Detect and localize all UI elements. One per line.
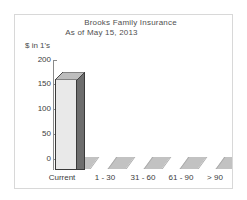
- x-axis-label-1-30: 1 - 30: [87, 173, 123, 183]
- y-axis-unit-label: $ in 1's: [25, 41, 50, 50]
- y-axis-label-50: 50: [21, 130, 51, 138]
- plot-area: 200 150 100 50 0: [15, 57, 233, 172]
- bar-top-outline-icon: [55, 72, 85, 80]
- y-axis-label-0: 0: [21, 155, 51, 163]
- y-axis-line: [53, 60, 54, 170]
- chart-frame: Brooks Family Insurance As of May 15, 20…: [14, 14, 233, 189]
- x-axis-label-61-90: 61 - 90: [161, 173, 201, 183]
- y-axis-tick: [53, 60, 57, 61]
- bar-side-face: [77, 72, 85, 170]
- bar-front-face: [55, 79, 77, 170]
- x-axis-label-31-60: 31 - 60: [123, 173, 163, 183]
- x-axis-label-current: Current: [37, 173, 87, 183]
- y-axis-label-200: 200: [21, 56, 51, 64]
- chart-subtitle: As of May 15, 2013: [15, 28, 232, 37]
- chart-title: Brooks Family Insurance: [15, 18, 232, 27]
- y-axis-label-100: 100: [21, 105, 51, 113]
- x-axis-labels: Current 1 - 30 31 - 60 61 - 90 > 90: [15, 173, 233, 187]
- bar-top-face-group: [55, 72, 85, 80]
- y-axis-label-150: 150: [21, 80, 51, 88]
- x-axis-label-over-90: > 90: [199, 173, 231, 183]
